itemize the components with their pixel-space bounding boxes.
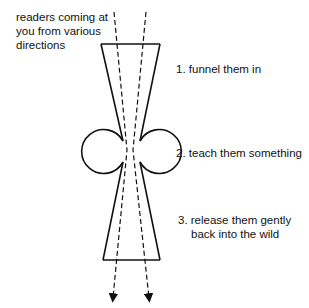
central-bulb-shape: [82, 130, 182, 174]
step-2-label: 2. teach them something: [176, 146, 302, 160]
step-3-line-1: 3. release them gently: [178, 214, 291, 226]
step-1-label: 1. funnel them in: [176, 62, 261, 76]
step-3-line-2: back into the wild: [178, 227, 308, 241]
intro-label: readers coming at you from various direc…: [16, 10, 116, 52]
intro-line-2: you from various: [16, 25, 101, 37]
intro-line-1: readers coming at: [16, 11, 108, 23]
upper-funnel-shape: [101, 44, 160, 141]
intro-line-3: directions: [16, 39, 65, 51]
reader-path-right-arrow-icon: [133, 12, 149, 298]
step-3-label: 3. release them gently back into the wil…: [178, 213, 308, 241]
reader-path-left-arrow-icon: [113, 12, 127, 298]
lower-funnel-shape: [103, 162, 160, 260]
reader-paths: [113, 12, 149, 298]
